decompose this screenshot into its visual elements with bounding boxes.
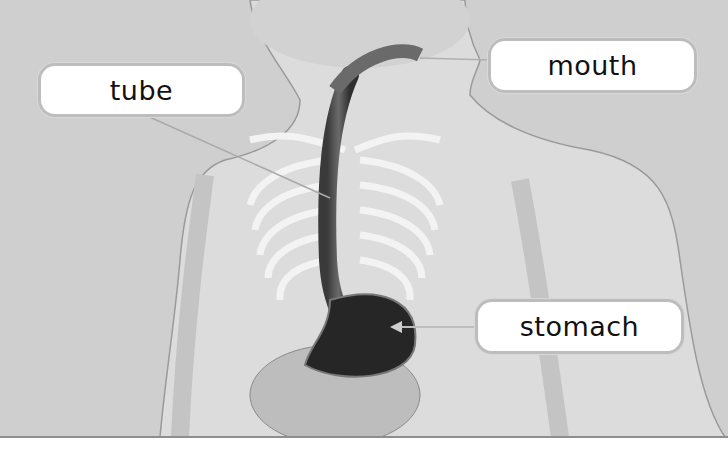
bottom-border xyxy=(0,436,728,438)
digestive-system-diagram: tube mouth stomach xyxy=(0,0,728,469)
label-stomach: stomach xyxy=(478,302,681,351)
label-tube: tube xyxy=(41,66,242,114)
label-mouth: mouth xyxy=(491,41,694,90)
